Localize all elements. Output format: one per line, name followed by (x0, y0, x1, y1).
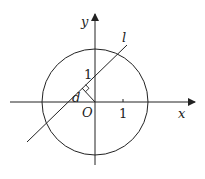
x-axis-label: x (178, 106, 186, 121)
origin-label: O (82, 105, 93, 120)
line-l-label: l (122, 30, 126, 45)
right-angle-marker (86, 85, 90, 92)
perpendicular-segment (82, 88, 95, 102)
diagram-canvas: y x O 1 1 l d (0, 0, 205, 179)
distance-label: d (72, 90, 80, 105)
x-tick-label: 1 (119, 106, 127, 121)
y-tick-label: 1 (84, 67, 92, 82)
y-axis-label: y (80, 14, 89, 29)
